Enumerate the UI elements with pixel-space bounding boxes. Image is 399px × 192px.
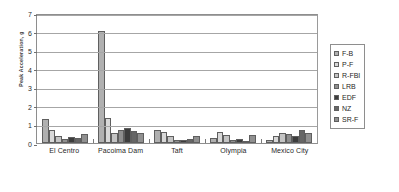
bar [230, 140, 237, 143]
bar [42, 119, 49, 143]
y-tick-7: 7 [28, 11, 32, 18]
x-axis-category-labels: El CentroPacoima DamTaftOlympiaMexico Ci… [36, 147, 318, 154]
bar [279, 133, 286, 143]
legend-item[interactable]: EDF [334, 92, 360, 103]
bar [55, 136, 62, 143]
bar [161, 132, 168, 143]
x-axis-label: El Centro [36, 147, 92, 154]
y-tick-0: 0 [28, 141, 32, 148]
legend-item[interactable]: R-FBI [334, 70, 360, 81]
bar [305, 133, 312, 143]
legend-label: R-FBI [342, 72, 360, 79]
legend-label: P-F [342, 61, 353, 68]
y-tickmark-3 [34, 89, 37, 90]
bar [292, 136, 299, 143]
bar [210, 138, 217, 143]
bar [193, 136, 200, 143]
y-tick-6: 6 [28, 29, 32, 36]
legend-swatch-icon [334, 95, 339, 100]
bar [286, 134, 293, 143]
bar [81, 134, 88, 143]
y-tick-2: 2 [28, 103, 32, 110]
y-tick-3: 3 [28, 85, 32, 92]
y-tickmark-4 [34, 70, 37, 71]
gridline-6 [37, 33, 317, 34]
legend-item[interactable]: P-F [334, 59, 360, 70]
y-tickmark-6 [34, 33, 37, 34]
x-axis-label: Pacoima Dam [92, 147, 148, 154]
legend-label: SR-F [342, 116, 358, 123]
bar [137, 133, 144, 143]
bar [236, 139, 243, 143]
bar [131, 131, 138, 143]
legend-item[interactable]: SR-F [334, 114, 360, 125]
bar [167, 136, 174, 143]
bar [124, 128, 131, 143]
gridline-2 [37, 107, 317, 108]
legend-swatch-icon [334, 62, 339, 67]
bar [187, 139, 194, 143]
legend-swatch-icon [334, 106, 339, 111]
bar [223, 135, 230, 143]
bar-group [149, 15, 205, 143]
y-tickmark-2 [34, 107, 37, 108]
gridline-3 [37, 89, 317, 90]
y-tickmark-7 [34, 15, 37, 16]
bar-group [93, 15, 149, 143]
bar-group [261, 15, 317, 143]
gridline-1 [37, 126, 317, 127]
legend-item[interactable]: F-B [334, 48, 360, 59]
bar [105, 118, 112, 143]
bar-group [205, 15, 261, 143]
y-axis-tick-labels: 01234567 [18, 14, 32, 144]
bar [111, 133, 118, 143]
bar [299, 130, 306, 143]
bar [180, 140, 187, 143]
bar [154, 130, 161, 143]
bar [68, 137, 75, 143]
legend-swatch-icon [334, 51, 339, 56]
gridline-5 [37, 52, 317, 53]
bar [118, 130, 125, 143]
y-tick-4: 4 [28, 66, 32, 73]
bar [174, 140, 181, 143]
y-tick-1: 1 [28, 122, 32, 129]
legend-label: NZ [342, 105, 351, 112]
legend-swatch-icon [334, 73, 339, 78]
legend-label: LRB [342, 83, 356, 90]
bar [249, 135, 256, 143]
gridline-4 [37, 70, 317, 71]
bar [273, 136, 280, 143]
bar-groups [37, 15, 317, 143]
plot-area [36, 14, 318, 144]
legend-swatch-icon [334, 84, 339, 89]
x-axis-label: Olympia [205, 147, 261, 154]
bar [75, 138, 82, 143]
legend-swatch-icon [334, 117, 339, 122]
y-tick-5: 5 [28, 48, 32, 55]
bar-group [37, 15, 93, 143]
legend-item[interactable]: NZ [334, 103, 360, 114]
legend-label: F-B [342, 50, 353, 57]
y-tickmark-5 [34, 52, 37, 53]
chart-figure: Peak Acceleration, g 01234567 El CentroP… [0, 0, 399, 192]
y-tickmark-0 [34, 145, 37, 146]
bar [49, 130, 56, 143]
bar [243, 141, 250, 143]
bar [266, 140, 273, 143]
x-axis-label: Mexico City [262, 147, 318, 154]
legend-item[interactable]: LRB [334, 81, 360, 92]
x-axis-label: Taft [149, 147, 205, 154]
legend-label: EDF [342, 94, 356, 101]
y-tickmark-1 [34, 126, 37, 127]
bar [217, 132, 224, 143]
legend: F-BP-FR-FBILRBEDFNZSR-F [330, 44, 365, 129]
bar [62, 139, 69, 143]
gridline-7 [37, 15, 317, 16]
